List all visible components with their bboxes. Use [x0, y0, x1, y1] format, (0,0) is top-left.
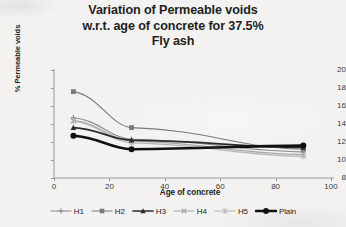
plot-area: 8101214161820 020406080100	[0, 62, 346, 187]
y-axis-tick-14: 14	[324, 119, 346, 128]
legend-swatch-plain	[255, 206, 277, 216]
y-axis-tick-10: 10	[324, 155, 346, 164]
y-axis-tick-8: 8	[324, 173, 346, 182]
x-axis-tick-mark	[276, 178, 277, 181]
legend-swatch-h1	[50, 206, 72, 216]
x-axis-title: Age of concrete	[40, 188, 340, 197]
chart-legend: H1H2H3H4H5Plain	[0, 206, 346, 216]
data-point-marker	[129, 146, 135, 152]
x-axis-tick-80: 80	[263, 182, 289, 191]
legend-swatch-h2	[91, 206, 113, 216]
x-axis-tick-60: 60	[207, 182, 233, 191]
legend-label-h3: H3	[156, 207, 166, 216]
x-axis-tick-mark	[331, 178, 332, 181]
x-axis-tick-100: 100	[318, 182, 344, 191]
y-axis-tick-mark	[51, 88, 54, 89]
legend-swatch-h3	[132, 206, 154, 216]
y-axis-tick-mark	[51, 142, 54, 143]
legend-item-h2[interactable]: H2	[91, 206, 125, 216]
legend-swatch-h4	[173, 206, 195, 216]
legend-swatch-h5	[214, 206, 236, 216]
data-point-marker	[263, 208, 269, 214]
legend-item-h4[interactable]: H4	[173, 206, 207, 216]
data-point-marker	[58, 209, 63, 214]
series-line-H5	[73, 121, 303, 156]
y-axis-tick-mark	[51, 70, 54, 71]
data-point-marker	[300, 143, 306, 149]
data-point-marker	[100, 209, 105, 214]
series-line-H2	[73, 92, 303, 150]
legend-item-h1[interactable]: H1	[50, 206, 84, 216]
x-axis-tick-mark	[165, 178, 166, 181]
y-axis-tick-mark	[51, 124, 54, 125]
legend-label-h1: H1	[74, 207, 84, 216]
x-axis-tick-mark	[109, 178, 110, 181]
legend-label-h4: H4	[197, 207, 207, 216]
y-axis-tick-18: 18	[324, 83, 346, 92]
y-axis-tick-16: 16	[324, 101, 346, 110]
data-point-marker	[71, 89, 76, 94]
data-point-marker	[129, 125, 134, 130]
chart-title-line-2: w.r.t. age of concrete for 37.5%	[0, 19, 346, 35]
chart-title: Variation of Permeable voids w.r.t. age …	[0, 3, 346, 50]
x-axis-tick-20: 20	[96, 182, 122, 191]
data-point-marker	[70, 133, 76, 139]
legend-item-h3[interactable]: H3	[132, 206, 166, 216]
legend-label-h2: H2	[115, 207, 125, 216]
chart-title-line-3: Fly ash	[0, 34, 346, 50]
x-axis-tick-mark	[54, 178, 55, 181]
y-axis-tick-mark	[51, 106, 54, 107]
legend-item-h5[interactable]: H5	[214, 206, 248, 216]
y-axis-tick-20: 20	[324, 65, 346, 74]
legend-label-h5: H5	[238, 207, 248, 216]
series-H4	[71, 118, 306, 157]
legend-item-plain[interactable]: Plain	[255, 206, 296, 216]
legend-label-plain: Plain	[279, 207, 296, 216]
x-axis-tick-mark	[220, 178, 221, 181]
x-axis-tick-40: 40	[152, 182, 178, 191]
chart-title-line-1: Variation of Permeable voids	[0, 3, 346, 19]
y-axis-tick-12: 12	[324, 137, 346, 146]
x-axis-tick-0: 0	[41, 182, 67, 191]
y-axis-tick-mark	[51, 160, 54, 161]
chart-container: Variation of Permeable voids w.r.t. age …	[0, 0, 346, 227]
